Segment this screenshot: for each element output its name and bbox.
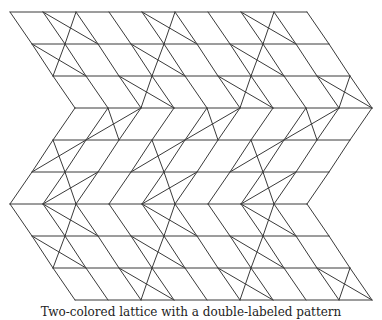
slant-line	[131, 236, 152, 268]
slant-line	[152, 268, 174, 300]
slant-line	[98, 236, 119, 268]
slant-line	[263, 44, 284, 76]
slant-line	[65, 140, 86, 172]
slant-line	[350, 76, 372, 108]
slant-line	[10, 12, 32, 44]
slant-line	[43, 172, 65, 204]
slant-line	[284, 108, 306, 140]
slant-line	[43, 204, 65, 236]
diagonal-line	[53, 44, 65, 76]
slant-line	[329, 44, 350, 76]
slant-line	[119, 268, 141, 300]
slant-line	[109, 172, 131, 204]
slant-line	[109, 204, 131, 236]
slant-line	[142, 12, 164, 44]
slant-line	[32, 140, 53, 172]
slant-line	[241, 204, 263, 236]
slant-line	[307, 12, 329, 44]
slant-line	[241, 12, 263, 44]
slant-line	[251, 268, 273, 300]
slant-line	[307, 172, 329, 204]
diagonal-line	[284, 108, 339, 140]
diagonal-line	[65, 204, 76, 236]
slant-line	[230, 236, 251, 268]
slant-line	[208, 172, 230, 204]
slant-line	[119, 108, 141, 140]
diagonal-line	[251, 44, 263, 76]
slant-line	[274, 12, 296, 44]
slant-line	[284, 268, 306, 300]
slant-line	[317, 268, 339, 300]
slant-line	[109, 12, 131, 44]
slant-line	[164, 140, 185, 172]
diagonal-line	[241, 172, 296, 204]
diagonal-line	[263, 204, 274, 236]
slant-line	[76, 172, 98, 204]
slant-line	[164, 236, 185, 268]
slant-line	[86, 76, 108, 108]
diagonal-line	[339, 76, 350, 108]
diagonal-line	[263, 12, 274, 44]
slant-line	[65, 236, 86, 268]
slant-line	[329, 140, 350, 172]
slant-line	[175, 12, 197, 44]
slant-line	[197, 140, 218, 172]
slanted-lattice-lines	[10, 12, 372, 300]
slant-line	[98, 140, 119, 172]
slant-line	[185, 268, 207, 300]
figure-caption: Two-colored lattice with a double-labele…	[0, 304, 382, 320]
diagonal-line	[164, 12, 175, 44]
horizontal-lattice-lines	[10, 12, 372, 300]
slant-line	[241, 172, 263, 204]
slant-line	[296, 236, 317, 268]
diagonal-line	[141, 268, 152, 300]
slant-line	[185, 108, 207, 140]
slant-line	[350, 268, 372, 300]
slant-line	[251, 108, 273, 140]
slant-line	[307, 204, 329, 236]
slant-line	[263, 140, 284, 172]
diagonal-line	[142, 172, 197, 204]
diagonal-line	[131, 140, 185, 172]
slant-line	[317, 108, 339, 140]
slant-line	[32, 236, 53, 268]
diagonal-line	[86, 108, 141, 140]
slant-line	[251, 76, 273, 108]
slant-line	[86, 268, 108, 300]
diagonal-line	[53, 236, 65, 268]
slant-line	[296, 44, 317, 76]
diagonal-line	[152, 236, 164, 268]
slant-line	[218, 268, 240, 300]
slant-line	[86, 108, 108, 140]
slant-line	[175, 204, 197, 236]
slant-line	[65, 44, 86, 76]
slant-line	[53, 108, 75, 140]
diagonal-line	[339, 268, 350, 300]
slant-line	[208, 204, 230, 236]
diagonal-line	[152, 44, 164, 76]
slant-line	[43, 12, 65, 44]
slant-line	[263, 236, 284, 268]
diagonal-line	[164, 204, 175, 236]
slant-line	[53, 268, 75, 300]
slant-line	[208, 12, 230, 44]
slant-line	[197, 236, 218, 268]
slant-line	[142, 172, 164, 204]
slant-line	[230, 140, 251, 172]
slant-line	[152, 76, 174, 108]
slant-line	[218, 76, 240, 108]
slant-line	[53, 76, 75, 108]
slant-line	[142, 204, 164, 236]
diagonal-line	[251, 236, 263, 268]
slant-line	[329, 236, 350, 268]
slant-line	[218, 108, 240, 140]
slant-line	[175, 172, 197, 204]
slant-line	[274, 172, 296, 204]
diagonal-line	[240, 268, 251, 300]
slant-line	[76, 204, 98, 236]
slant-line	[131, 44, 152, 76]
slant-line	[119, 76, 141, 108]
diagonal-line	[32, 140, 86, 172]
diagonal-line	[185, 108, 240, 140]
